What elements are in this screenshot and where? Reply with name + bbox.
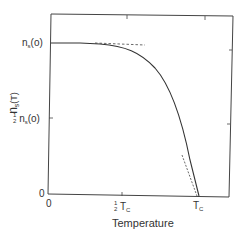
y-tick-ns0-tail: (o) <box>31 37 43 48</box>
frac-den: 2 <box>13 118 16 124</box>
y-tick-zero: 0 <box>39 189 45 199</box>
x-tick-tc: TC <box>193 201 203 212</box>
ns-curve <box>51 43 199 196</box>
y-axis-title-sub: s <box>13 104 20 108</box>
x-tick-half-sub: C <box>126 207 130 213</box>
x-tick-half-frac: 12 <box>114 200 117 212</box>
y-axis-title-tail: (T) <box>9 92 19 104</box>
y-tick-ns0: ns(o) <box>22 38 43 49</box>
x-tick-tc-sub: C <box>199 206 203 212</box>
x-axis-title: Temperature <box>112 218 174 229</box>
plot-frame <box>48 14 233 197</box>
slope-dashed-line <box>182 155 197 196</box>
x-tick-zero: 0 <box>46 199 52 209</box>
y-axis-title-main: n <box>6 107 20 114</box>
y-tick-half: 12 ns(o) <box>13 112 40 125</box>
frac-den: 2 <box>114 206 117 212</box>
y-tick-half-tail: (o) <box>28 113 40 124</box>
x-tick-half: 12 TC <box>114 200 130 213</box>
y-axis-title: ns(T) <box>6 92 20 114</box>
